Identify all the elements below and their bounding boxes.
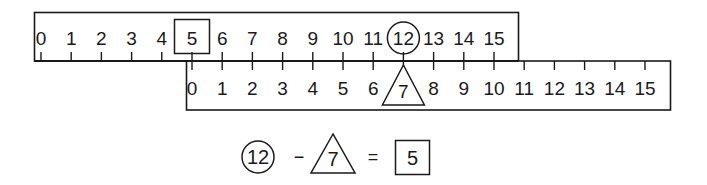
equation-subtrahend: 7 [327, 148, 338, 170]
top-ruler-label: 9 [308, 28, 319, 49]
top-ruler-label: 4 [157, 28, 168, 49]
bottom-ruler-label: 13 [574, 78, 595, 99]
bottom-ruler-label: 9 [459, 78, 470, 99]
top-ruler-label: 1 [66, 28, 77, 49]
bottom-ruler-label: 7 [398, 81, 409, 102]
bottom-ruler-label: 0 [187, 78, 198, 99]
top-ruler-label: 6 [217, 28, 228, 49]
top-ruler-label: 0 [36, 28, 47, 49]
top-ruler-label: 11 [363, 28, 383, 49]
top-ruler-label: 8 [277, 28, 288, 49]
bottom-ruler-label: 2 [247, 78, 258, 99]
top-ruler-label: 3 [126, 28, 137, 49]
bottom-ruler-label: 11 [514, 78, 534, 99]
equation: 12 − 7 = 5 [242, 134, 430, 175]
bottom-ruler-label: 5 [338, 78, 349, 99]
top-ruler-label: 5 [187, 28, 198, 49]
bottom-ruler-label: 1 [217, 78, 228, 99]
top-ruler-label: 12 [393, 28, 414, 49]
top-ruler-label: 2 [96, 28, 107, 49]
equation-result: 5 [407, 147, 418, 169]
equation-minuend: 12 [247, 146, 269, 168]
top-ruler-label: 15 [483, 28, 504, 49]
bottom-ruler-label: 15 [634, 78, 655, 99]
top-ruler-label: 7 [247, 28, 258, 49]
equation-minus: − [294, 147, 305, 167]
bottom-ruler-label: 4 [308, 78, 319, 99]
top-ruler-label: 13 [423, 28, 444, 49]
top-ruler-label: 14 [453, 28, 475, 49]
slide-rule-diagram: 0123456789101112131415 01234567891011121… [0, 0, 707, 185]
bottom-ruler-label: 10 [483, 78, 504, 99]
bottom-ruler-label: 6 [368, 78, 379, 99]
bottom-ruler-label: 12 [544, 78, 565, 99]
bottom-ruler-label: 14 [604, 78, 626, 99]
bottom-ruler-label: 3 [277, 78, 288, 99]
top-ruler-label: 10 [332, 28, 353, 49]
bottom-ruler-label: 8 [428, 78, 439, 99]
equation-equals: = [368, 147, 379, 167]
